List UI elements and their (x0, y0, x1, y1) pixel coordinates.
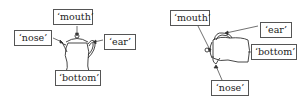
label-bottom: ‘bottom’ (251, 44, 297, 60)
label-ear: ‘ear’ (260, 22, 292, 38)
label-mouth: ‘mouth’ (53, 9, 93, 25)
label-mouth: ‘mouth’ (170, 10, 210, 26)
label-nose: ‘nose’ (14, 30, 52, 46)
left-panel: ‘mouth’ ‘nose’ ‘ear’ ‘bottom’ (0, 0, 150, 103)
label-nose: ‘nose’ (211, 80, 249, 96)
label-bottom: ‘bottom’ (55, 70, 101, 86)
label-ear: ‘ear’ (104, 34, 136, 50)
right-panel: ‘mouth’ ‘ear’ ‘bottom’ ‘nose’ (150, 0, 303, 103)
